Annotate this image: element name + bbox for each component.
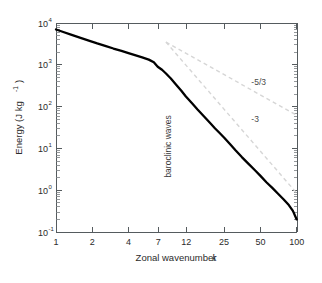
y-axis-title-close: ) xyxy=(13,80,24,83)
slope-labels: -5/3 -3 xyxy=(251,77,266,124)
reference-line-minus-five-thirds xyxy=(166,42,297,115)
y-axis-title-exponent: -1 xyxy=(12,86,19,92)
reference-lines xyxy=(166,42,297,193)
slope-label-minus-three: -3 xyxy=(251,114,259,124)
x-tick-label: 12 xyxy=(181,237,191,247)
y-tick-exponent: 1 xyxy=(49,142,53,148)
reference-line-minus-three xyxy=(166,42,297,193)
y-axis-title-group: Energy (J kg -1 ) xyxy=(12,80,24,155)
x-tick-label: 7 xyxy=(156,237,161,247)
x-axis-title-symbol: k xyxy=(212,252,217,263)
x-tick-labels: 1 2 4 7 12 25 50 100 xyxy=(53,237,304,247)
x-axis-title: Zonal wavenumber xyxy=(136,252,217,263)
y-tick-label: 10 xyxy=(38,60,48,70)
y-tick-label: 10 xyxy=(38,19,48,29)
x-tick-label: 50 xyxy=(255,237,265,247)
y-tick-label: 10 xyxy=(38,186,48,196)
baroclinic-waves-annotation: baroclinic waves xyxy=(163,115,173,177)
y-tick-exponent: 3 xyxy=(49,58,53,64)
figure-container: 10 -1 10 0 10 1 10 2 10 3 10 4 xyxy=(0,0,322,283)
x-tick-label: 4 xyxy=(126,237,131,247)
y-tick-exponent: 4 xyxy=(49,17,53,23)
x-tick-label: 100 xyxy=(289,237,304,247)
x-tick-label: 25 xyxy=(219,237,229,247)
y-tick-label: 10 xyxy=(38,144,48,154)
y-tick-label: 10 xyxy=(38,102,48,112)
y-tick-exponent: -1 xyxy=(49,226,55,232)
y-tick-label: 10 xyxy=(38,228,48,238)
x-tick-label: 1 xyxy=(53,237,58,247)
y-tick-exponent: 0 xyxy=(49,184,53,190)
slope-label-minus-five-thirds: -5/3 xyxy=(251,77,266,87)
y-tick-exponent: 2 xyxy=(49,100,53,106)
y-tick-labels: 10 -1 10 0 10 1 10 2 10 3 10 4 xyxy=(38,17,55,238)
x-tick-label: 2 xyxy=(90,237,95,247)
energy-spectrum-chart: 10 -1 10 0 10 1 10 2 10 3 10 4 xyxy=(0,0,322,283)
y-axis-title: Energy (J kg xyxy=(13,101,24,154)
energy-spectrum-curve xyxy=(56,29,297,219)
